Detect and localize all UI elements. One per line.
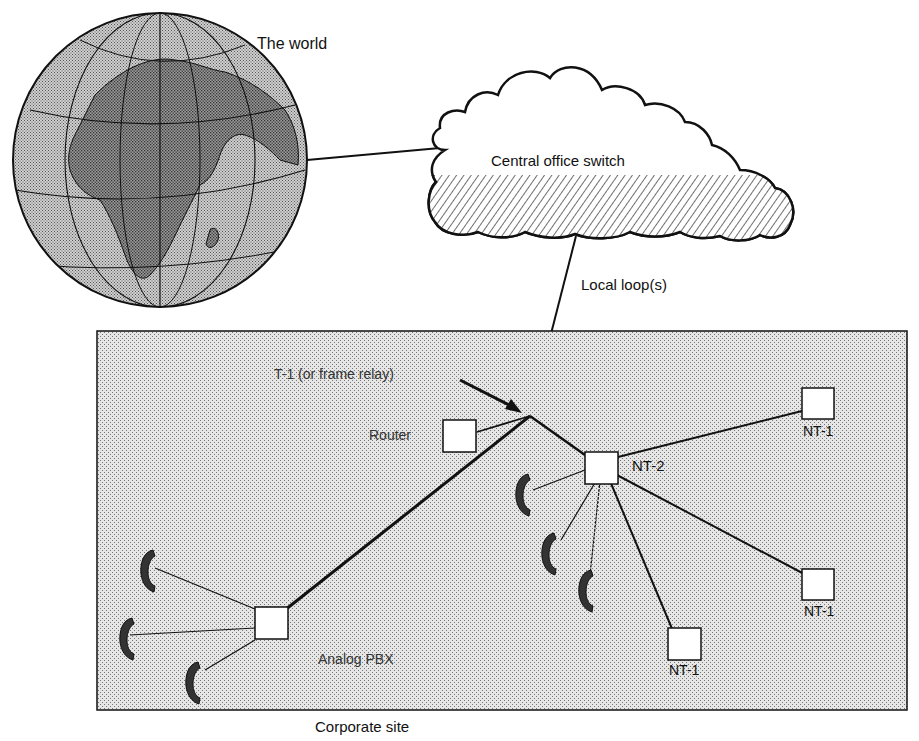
pbx-label: Analog PBX [318,651,394,667]
nt1-right-box [802,569,834,600]
nt1-top-label: NT-1 [803,423,833,439]
corporate-site-label: Corporate site [315,718,409,735]
nt1-top-box [802,388,834,419]
local-loop-label: Local loop(s) [581,276,667,293]
world-label: The world [257,35,327,53]
router-box [443,420,476,452]
t1-label: T-1 (or frame relay) [274,366,394,382]
nt1-right-label: NT-1 [804,603,834,619]
world-link [307,148,440,160]
nt1-bottom-box [668,628,701,660]
corporate-site-box [97,331,907,710]
nt2-label: NT-2 [632,457,665,474]
diagram-canvas [0,0,919,741]
nt1-bottom-label: NT-1 [669,662,699,678]
nt2-box [585,452,618,484]
pbx-box [255,607,288,639]
router-label: Router [369,427,411,443]
central-office-label: Central office switch [491,152,625,169]
globe-icon [13,10,307,310]
